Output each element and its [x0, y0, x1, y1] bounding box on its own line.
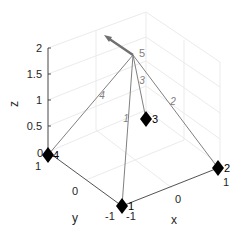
edge-5-4 — [48, 55, 133, 155]
z-tick-0: 0 — [37, 147, 43, 159]
y-tick-0: 0 — [72, 185, 78, 197]
z-tick-0.5: 0.5 — [27, 120, 42, 132]
x-axis — [122, 168, 218, 206]
z-tick-1: 1 — [36, 94, 42, 106]
x-axis-label: x — [171, 213, 177, 227]
arrow-icon — [104, 35, 133, 55]
nodes — [42, 111, 224, 214]
edge-label-4: 4 — [99, 90, 105, 101]
edge-label-3: 3 — [139, 75, 145, 86]
x-tick-1: 1 — [223, 176, 229, 188]
z-tick-2: 2 — [36, 42, 42, 54]
node-label-1: 1 — [128, 200, 134, 212]
z-tick-1.5: 1.5 — [27, 68, 42, 80]
node-label-5: 5 — [139, 47, 145, 59]
edge-label-1: 1 — [123, 113, 129, 124]
graph-plot-3d: 2 1.5 1 0.5 0 z 1 0 -1 y -1 0 1 x 1 2 3 … — [0, 0, 245, 240]
y-tick--1: -1 — [105, 210, 115, 222]
node-label-4: 4 — [53, 149, 59, 161]
edges — [48, 55, 218, 206]
edge-label-2: 2 — [169, 96, 176, 107]
y-tick-1: 1 — [35, 160, 41, 172]
y-axis-label: y — [72, 211, 78, 225]
edge-5-1 — [122, 55, 133, 206]
node-label-3: 3 — [152, 113, 158, 125]
x-tick-0: 0 — [175, 193, 181, 205]
z-axis-label: z — [7, 101, 21, 107]
node-label-2: 2 — [224, 162, 230, 174]
grid-lines — [48, 12, 220, 188]
